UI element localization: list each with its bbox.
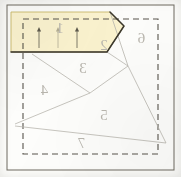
section-2: 2 (100, 37, 108, 53)
section-4: 4 (40, 82, 48, 98)
section-5: 5 (100, 107, 108, 123)
section-6: 6 (137, 30, 145, 46)
pattern-diagram: 1234567 (0, 0, 181, 177)
pattern-scan-canvas: 1234567 (0, 0, 181, 177)
section-3: 3 (79, 60, 87, 76)
section-1: 1 (56, 20, 64, 36)
section-7: 7 (77, 135, 85, 151)
